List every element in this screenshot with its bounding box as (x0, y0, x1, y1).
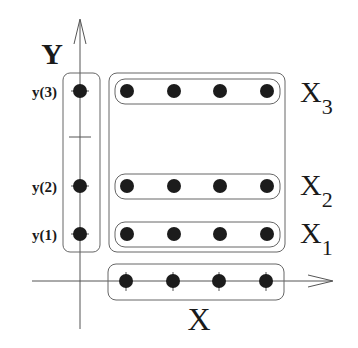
row-label-x3: X3 (300, 75, 333, 119)
row-group-x1 (115, 222, 280, 247)
x-axis (32, 275, 333, 287)
x-row-group-box (108, 264, 284, 300)
y-point-3 (73, 84, 87, 98)
y-tick-label-3: y(3) (32, 84, 57, 101)
x-point-3 (212, 274, 226, 288)
x-axis-label: X (187, 301, 210, 337)
x-point-1 (119, 274, 133, 288)
grid-group-box (109, 73, 285, 252)
y-tick-label-1: y(1) (32, 227, 57, 244)
y-point-1 (73, 227, 87, 241)
y-axis (74, 19, 86, 329)
y-column-group-box (63, 73, 100, 252)
row-label-x1: X1 (300, 216, 333, 260)
row-label-x2: X2 (300, 168, 333, 212)
x-point-2 (166, 274, 180, 288)
y-tick-label-2: y(2) (32, 179, 57, 196)
y-point-2 (73, 179, 87, 193)
row-group-x2 (115, 174, 280, 199)
x-point-4 (259, 274, 273, 288)
diagram-canvas: Y X y(3) y(2) y(1) (0, 0, 358, 348)
row-group-x3 (115, 79, 280, 104)
y-axis-label: Y (41, 37, 63, 70)
